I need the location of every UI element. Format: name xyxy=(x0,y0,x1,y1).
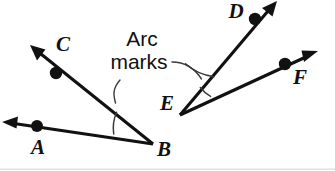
vertex-label-b: B xyxy=(156,137,171,161)
arc-mark-at-b xyxy=(113,112,116,134)
leader-curve-to-b-arc xyxy=(114,80,120,103)
callout-text-line-2: marks xyxy=(110,50,167,73)
vertex-label-e: E xyxy=(159,91,174,115)
geometry-figure: Arc marks A B C D E F xyxy=(0,0,335,171)
ray-ef-arrowhead xyxy=(302,51,319,63)
point-dot-f xyxy=(279,58,291,70)
callout-text-line-1: Arc xyxy=(126,27,158,50)
ray-bc-arrowhead xyxy=(30,45,46,61)
figure-canvas: Arc marks A B C D E F xyxy=(0,0,335,171)
point-dot-c xyxy=(50,67,62,79)
point-dot-a xyxy=(31,120,43,132)
arc-mark-at-e-outer xyxy=(186,64,215,77)
point-dot-d xyxy=(249,13,261,25)
arc-mark-at-e-inner xyxy=(200,88,210,97)
ray-ba-arrowhead xyxy=(2,117,18,129)
point-label-a: A xyxy=(29,135,45,159)
point-label-f: F xyxy=(292,65,307,89)
leader-curve-to-e-arc xyxy=(172,62,202,79)
ray-ba xyxy=(2,117,153,145)
ray-ed-line xyxy=(180,11,268,115)
point-label-d: D xyxy=(227,0,243,23)
point-label-c: C xyxy=(56,32,71,56)
